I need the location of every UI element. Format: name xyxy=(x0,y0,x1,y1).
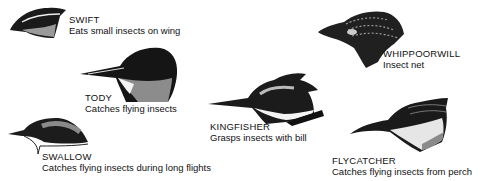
whippoorwill-label: WHIPPOORWILL Insect net xyxy=(383,48,460,70)
kingfisher-label: KINGFISHER Grasps insects with bill xyxy=(210,121,307,143)
bird-description: Insect net xyxy=(383,59,460,70)
tody-label: TODY Catches flying insects xyxy=(85,92,177,114)
swallow-label: SWALLOW Catches flying insects during lo… xyxy=(42,151,211,173)
bird-name: SWALLOW xyxy=(42,151,211,162)
bird-name: WHIPPOORWILL xyxy=(383,48,460,59)
bird-description: Catches flying insects during long fligh… xyxy=(42,162,211,173)
bird-description: Catches flying insects xyxy=(85,103,177,114)
bird-description: Grasps insects with bill xyxy=(210,132,307,143)
bird-name: TODY xyxy=(85,92,177,103)
flycatcher-head-illustration xyxy=(350,96,450,154)
bird-name: FLYCATCHER xyxy=(332,155,472,166)
swift-label: SWIFT Eats small insects on wing xyxy=(69,14,180,36)
flycatcher-label: FLYCATCHER Catches flying insects from p… xyxy=(332,155,472,177)
bird-name: SWIFT xyxy=(69,14,180,25)
bird-name: KINGFISHER xyxy=(210,121,307,132)
bird-description: Catches flying insects from perch xyxy=(332,166,472,177)
bird-description: Eats small insects on wing xyxy=(69,25,180,36)
swift-head-illustration xyxy=(8,4,68,40)
